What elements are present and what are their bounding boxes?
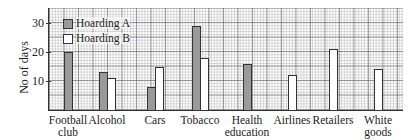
bar-hoarding-b <box>329 49 338 111</box>
y-tick-label: 30 <box>20 17 44 29</box>
bar-hoarding-b <box>288 75 297 111</box>
bar-hoarding-b <box>374 69 383 111</box>
bar-hoarding-a <box>64 52 73 111</box>
legend-swatch-b <box>63 34 73 44</box>
y-tick-label: 10 <box>20 75 44 87</box>
x-category-label: Whitegoods <box>348 114 408 138</box>
bar-hoarding-b <box>200 58 209 111</box>
bar-chart: No of days 102030 FootballclubAlcoholCar… <box>0 0 419 140</box>
bar-hoarding-b <box>155 67 164 112</box>
bar-hoarding-a <box>243 64 252 111</box>
y-tick-mark <box>46 52 51 53</box>
y-tick-mark <box>46 81 51 82</box>
legend-swatch-a <box>63 19 73 29</box>
bar-hoarding-b <box>107 78 116 111</box>
y-tick-label: 20 <box>20 46 44 58</box>
legend-label-b: Hoarding B <box>76 32 130 44</box>
legend-label-a: Hoarding A <box>76 17 130 29</box>
y-tick-mark <box>46 23 51 24</box>
